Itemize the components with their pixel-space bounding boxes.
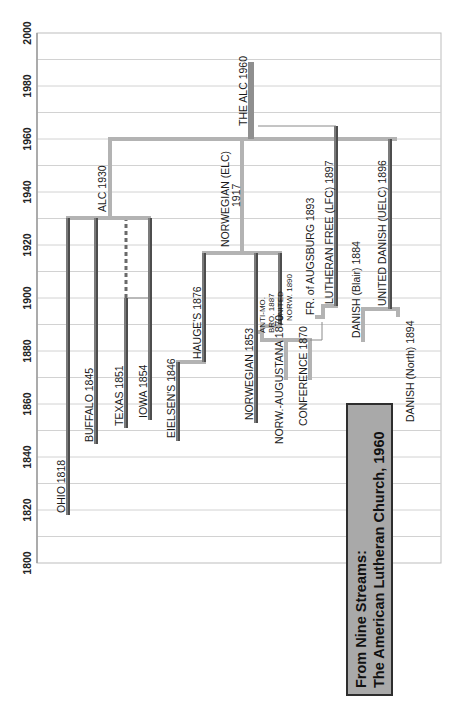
label-hauges: HAUGE'S 1876 <box>191 286 203 359</box>
tick-1920: 1920 <box>21 233 33 257</box>
tick-1840: 1840 <box>21 445 33 469</box>
label-norw-augustana: NORW.-AUGUSTANA 1870 <box>273 315 285 444</box>
tick-1940: 1940 <box>21 180 33 204</box>
tick-1960: 1960 <box>21 127 33 151</box>
tick-1880: 1880 <box>21 339 33 363</box>
tick-2000: 2000 <box>21 21 33 45</box>
year-axis: 2000 1980 1960 1940 1920 1900 1880 1860 … <box>21 21 33 575</box>
label-iowa: IOWA 1854 <box>137 365 149 418</box>
label-danish-north: DANISH (North) 1894 <box>404 320 416 422</box>
tick-1980: 1980 <box>21 74 33 98</box>
label-danish-blair: DANISH (Blair) 1884 <box>350 241 362 338</box>
label-buffalo: BUFFALO 1845 <box>83 368 95 442</box>
tick-1800: 1800 <box>21 551 33 575</box>
lutheran-streams-diagram: 2000 1980 1960 1940 1920 1900 1880 1860 … <box>0 0 469 709</box>
label-ohio: OHIO 1818 <box>55 460 67 513</box>
label-united-norw-year: NORW. 1890 <box>285 273 294 321</box>
label-norwegian-1853: NORWEGIAN 1853 <box>243 328 255 420</box>
tick-1900: 1900 <box>21 286 33 310</box>
tick-1860: 1860 <box>21 392 33 416</box>
label-conference: CONFERENCE 1870 <box>297 326 309 426</box>
label-united-danish: UNITED DANISH (UELC) 1896 <box>376 160 388 306</box>
title-line-1: From Nine Streams: <box>353 550 369 688</box>
title-line-2: The American Lutheran Church, 1960 <box>371 431 387 688</box>
tick-1820: 1820 <box>21 498 33 522</box>
label-anti-mo: ANTI-MO. <box>258 297 267 333</box>
title-box: From Nine Streams: The American Lutheran… <box>347 404 392 695</box>
label-texas: TEXAS 1851 <box>113 365 125 426</box>
label-lutheran-free: LUTHERAN FREE (LFC) 1897 <box>323 160 335 304</box>
label-alc-1960: THE ALC 1960 <box>237 56 249 126</box>
label-eielsens: EIELSEN'S 1846 <box>165 358 177 438</box>
label-fr-augsburg: FR. of AUGSBURG 1893 <box>304 198 316 315</box>
label-norwegian-elc-year: 1917 <box>230 183 242 207</box>
label-alc-1930: ALC 1930 <box>96 165 108 212</box>
